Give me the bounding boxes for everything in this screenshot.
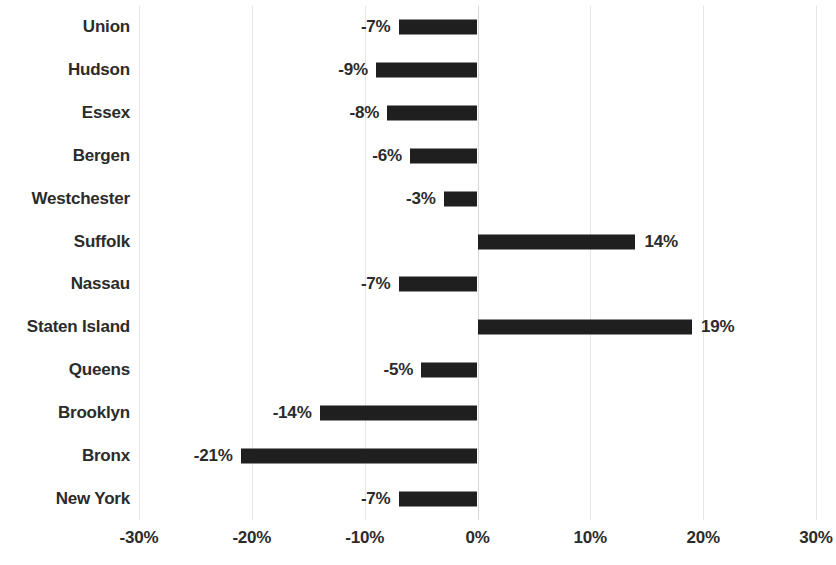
- gridline-30pct: [816, 6, 817, 520]
- category-label: Westchester: [31, 177, 130, 220]
- bar-row: -9%: [139, 49, 816, 92]
- x-tick-label: 20%: [686, 528, 719, 548]
- plot-area: -7%-9%-8%-6%-3%14%-7%19%-5%-14%-21%-7%: [139, 6, 816, 520]
- bar-row: -7%: [139, 477, 816, 520]
- bar-row: -8%: [139, 92, 816, 135]
- x-tick-label: 30%: [799, 528, 832, 548]
- bar-value-label: -14%: [273, 403, 312, 423]
- bar[interactable]: [376, 63, 478, 78]
- bar-value-label: -8%: [350, 103, 380, 123]
- category-label: New York: [56, 477, 130, 520]
- bar-row: -5%: [139, 349, 816, 392]
- bar-value-label: -7%: [361, 17, 391, 37]
- x-tick-label: -20%: [232, 528, 271, 548]
- bar[interactable]: [320, 405, 478, 420]
- bar-row: -7%: [139, 263, 816, 306]
- category-label: Bronx: [82, 434, 130, 477]
- x-tick-label: 0%: [465, 528, 489, 548]
- category-label: Nassau: [71, 263, 130, 306]
- category-label: Hudson: [68, 49, 130, 92]
- bar[interactable]: [387, 106, 477, 121]
- bar-chart: UnionHudsonEssexBergenWestchesterSuffolk…: [0, 0, 836, 565]
- bar-row: -14%: [139, 392, 816, 435]
- bar-row: 19%: [139, 306, 816, 349]
- category-label: Staten Island: [27, 306, 130, 349]
- bar[interactable]: [399, 277, 478, 292]
- bar-value-label: -9%: [338, 60, 368, 80]
- x-tick-label: -30%: [120, 528, 159, 548]
- bar[interactable]: [399, 491, 478, 506]
- bar-row: -7%: [139, 6, 816, 49]
- category-label: Brooklyn: [58, 392, 130, 435]
- bar-rows: -7%-9%-8%-6%-3%14%-7%19%-5%-14%-21%-7%: [139, 6, 816, 520]
- bar[interactable]: [421, 363, 477, 378]
- bar-value-label: -6%: [372, 146, 402, 166]
- bar-row: -6%: [139, 135, 816, 178]
- bar-value-label: -7%: [361, 489, 391, 509]
- bar-value-label: -3%: [406, 189, 436, 209]
- bar[interactable]: [478, 234, 636, 249]
- bar[interactable]: [444, 191, 478, 206]
- y-axis-category-labels: UnionHudsonEssexBergenWestchesterSuffolk…: [0, 6, 130, 520]
- bar-row: -3%: [139, 177, 816, 220]
- bar[interactable]: [241, 448, 478, 463]
- bar-row: -21%: [139, 434, 816, 477]
- category-label: Suffolk: [74, 220, 130, 263]
- bar[interactable]: [478, 320, 692, 335]
- bar[interactable]: [399, 20, 478, 35]
- category-label: Queens: [69, 349, 130, 392]
- category-label: Bergen: [73, 135, 130, 178]
- bar-value-label: -5%: [383, 360, 413, 380]
- bar-value-label: -7%: [361, 274, 391, 294]
- x-tick-label: 10%: [574, 528, 607, 548]
- bar-value-label: -21%: [194, 446, 233, 466]
- x-axis-tick-labels: -30%-20%-10%0%10%20%30%: [139, 528, 816, 562]
- bar-value-label: 14%: [644, 232, 677, 252]
- category-label: Essex: [82, 92, 130, 135]
- category-label: Union: [83, 6, 130, 49]
- bar[interactable]: [410, 148, 478, 163]
- x-tick-label: -10%: [345, 528, 384, 548]
- bar-row: 14%: [139, 220, 816, 263]
- bar-value-label: 19%: [701, 317, 734, 337]
